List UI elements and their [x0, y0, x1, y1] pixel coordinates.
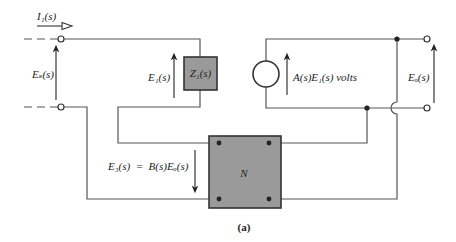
dependent-source-label: A(s)E₁(s) volts [292, 71, 357, 84]
feedback-voltage-label: E₃(s) = B(s)Eₒ(s) [107, 160, 189, 173]
n-port-dot [217, 141, 222, 146]
figure-caption: (a) [238, 221, 251, 234]
e1-voltage-label: E₁(s) [147, 71, 170, 84]
output-terminal-top [424, 36, 430, 42]
circuit-diagram: Z₁(s) N I₁(s) Eₛ(s) E₁(s) A(s)E₁(s) volt… [0, 0, 456, 242]
input-terminal-bottom [58, 104, 64, 110]
junction-dot-bottom [364, 105, 369, 110]
current-arrow-icon [37, 23, 72, 30]
n-port-dot [267, 197, 272, 202]
n-label: N [239, 167, 248, 179]
dependent-source-icon [253, 61, 279, 87]
junction-dot-top [394, 36, 399, 41]
output-voltage-label: Eₒ(s) [407, 71, 430, 84]
z1-label: Z₁(s) [190, 67, 212, 80]
n-port-dot [217, 197, 222, 202]
output-terminal-bottom [424, 105, 430, 111]
input-terminal-top [58, 36, 64, 42]
source-voltage-label: Eₛ(s) [31, 68, 54, 81]
n-port-dot [267, 141, 272, 146]
input-current-label: I₁(s) [36, 10, 56, 23]
